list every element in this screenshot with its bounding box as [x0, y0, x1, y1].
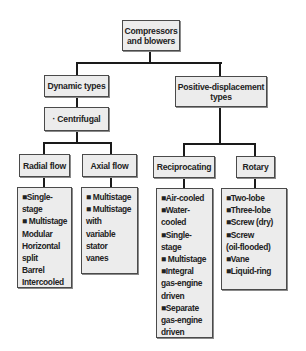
- node-label: Reciprocating: [157, 162, 212, 172]
- connector-to-reciprocating: [183, 143, 185, 156]
- node-rotary: Rotary: [236, 156, 275, 178]
- connector-rotary-to-list: [254, 178, 256, 188]
- connector-to-radial: [43, 142, 45, 154]
- list-item: ■Vane: [226, 253, 284, 265]
- list-item: ■Integral gas-engine driven: [161, 265, 210, 302]
- connector-axial-to-list: [110, 177, 112, 187]
- node-label: · Centrifugal: [52, 114, 100, 124]
- node-compressors-and-blowers: Compressors and blowers: [122, 20, 180, 51]
- connector-radial-to-list: [43, 177, 45, 187]
- node-centrifugal: · Centrifugal: [44, 107, 109, 131]
- list-item: Modular: [22, 228, 69, 240]
- list-item: ■Separate gas-engine driven: [161, 302, 210, 339]
- node-radial-flow: Radial flow: [19, 154, 70, 177]
- list-item: Intercooled: [22, 276, 69, 288]
- list-item: ■ Multistage: [22, 215, 69, 227]
- list-item: ■Single-stage: [161, 229, 210, 253]
- list-item: ■Three-lobe: [226, 204, 284, 216]
- list-item: ■ Multistage: [161, 253, 210, 265]
- list-reciprocating-types: ■Air-cooled ■Water- cooled ■Single-stage…: [156, 188, 213, 338]
- connector-to-axial: [110, 142, 112, 154]
- list-item: ■Screw (oil-flooded): [226, 229, 284, 253]
- connector-reciprocating-to-list: [183, 178, 185, 188]
- node-label: Radial flow: [23, 161, 66, 171]
- list-item: Barrel: [22, 264, 69, 276]
- node-label: Axial flow: [90, 161, 128, 171]
- node-reciprocating: Reciprocating: [153, 156, 215, 178]
- node-dynamic-types: Dynamic types: [44, 75, 109, 97]
- list-item: ■Two-lobe: [226, 192, 284, 204]
- connector-to-dynamic: [76, 62, 78, 75]
- node-axial-flow: Axial flow: [82, 154, 137, 177]
- list-item: Horizontal split: [22, 240, 69, 264]
- node-label: Dynamic types: [47, 81, 105, 91]
- connector-dynamic-to-centrifugal: [76, 97, 78, 107]
- list-axial-flow-types: ■ Multistage ■ Multistage with variable …: [81, 187, 138, 274]
- list-radial-flow-types: ■Single-stage ■ Multistage Modular Horiz…: [17, 187, 72, 288]
- node-label: Positive-displacement types: [178, 82, 265, 102]
- connector-centrifugal-branch: [43, 142, 112, 144]
- connector-positive-branch: [183, 143, 256, 145]
- list-item: ■ Multistage with variable stator vanes: [86, 203, 135, 264]
- list-item: ■Liquid-ring: [226, 265, 284, 277]
- list-item: ■Screw (dry): [226, 216, 284, 228]
- list-item: ■Air-cooled: [161, 192, 210, 204]
- connector-to-positive: [219, 62, 221, 76]
- compressor-classification-diagram: Compressors and blowers Dynamic types Po…: [0, 0, 306, 351]
- connector-to-rotary: [254, 143, 256, 156]
- list-item: ■ Multistage: [86, 191, 135, 203]
- list-item: ■Water- cooled: [161, 204, 210, 228]
- node-label: Rotary: [242, 162, 268, 172]
- node-positive-displacement-types: Positive-displacement types: [175, 76, 267, 107]
- connector-positive-stem: [219, 107, 221, 144]
- connector-root-branch: [76, 62, 222, 64]
- list-rotary-types: ■Two-lobe ■Three-lobe ■Screw (dry) ■Scre…: [221, 188, 287, 290]
- list-item: ■Single-stage: [22, 191, 69, 215]
- node-label: Compressors and blowers: [124, 26, 177, 46]
